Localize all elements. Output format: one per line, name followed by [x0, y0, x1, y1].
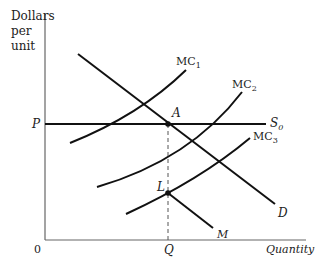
y-axis-label-line-1: Dollars	[11, 9, 55, 23]
mc1-label: MC1	[176, 55, 201, 70]
origin-label: 0	[34, 243, 41, 256]
demand-curve	[78, 54, 275, 204]
m-label: M	[216, 228, 229, 241]
demand-label: D	[277, 206, 288, 220]
y-axis-label-line-3: unit	[11, 39, 35, 53]
point-l-label: L	[156, 180, 165, 194]
quantity-label: Q	[164, 243, 174, 257]
economics-diagram: Dollars per unit 0 Quantity P Q S0 D MC1…	[0, 0, 322, 271]
point-a	[165, 121, 171, 127]
point-a-label: A	[171, 106, 181, 120]
point-l	[165, 190, 171, 196]
x-axis-label: Quantity	[266, 243, 315, 256]
m-curve	[168, 193, 213, 228]
mc3-label: MC3	[253, 130, 278, 145]
mc1-curve	[70, 70, 186, 143]
mc2-curve	[97, 92, 242, 187]
price-label: P	[31, 117, 41, 131]
y-axis-label-line-2: per	[11, 24, 32, 38]
mc3-curve	[126, 138, 250, 214]
mc2-label: MC2	[232, 78, 257, 93]
